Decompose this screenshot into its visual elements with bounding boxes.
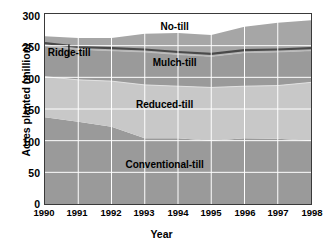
series-label-mulch-till: Mulch-till [13,57,323,68]
y-tick-100: 100 [4,137,40,147]
stacked-area-chart: Acres planted (million) 300 250 200 150 … [0,0,323,245]
y-tick-300: 300 [4,11,40,21]
series-label-ridge-till: Ridge-till [0,47,231,58]
y-tick-200: 200 [4,74,40,84]
series-label-conventional-till: Conventional-till [3,159,323,170]
series-label-no-till: No-till [13,21,323,32]
series-label-reduced-till: Reduced-till [3,99,323,110]
x-tick-1998: 1998 [292,207,323,218]
x-axis-title: Year [0,228,323,240]
